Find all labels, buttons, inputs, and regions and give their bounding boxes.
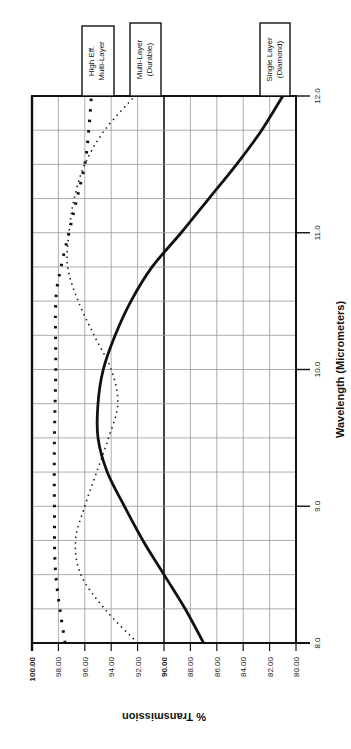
y-tick-label: 80.00: [292, 656, 301, 677]
legend-label: (Durable): [145, 42, 154, 76]
x-tick-label: 10.0: [313, 361, 322, 377]
y-tick-label: 88.00: [186, 656, 195, 677]
y-tick-label: 100.00: [28, 656, 37, 681]
y-tick-label: 98.00: [54, 656, 63, 677]
y-tick-label: 92.00: [134, 656, 143, 677]
x-tick-label: 9.0: [313, 500, 322, 512]
legend-label: Single Layer: [265, 37, 274, 82]
transmission-chart: 100.0098.0096.0094.0092.0090.0088.0086.0…: [0, 0, 351, 749]
y-tick-label: 82.00: [266, 656, 275, 677]
legend-item: High Eff.Multi-Layer: [82, 26, 114, 96]
legend-item: Single Layer(Diamond): [260, 23, 290, 96]
legend-item: Multi-Layer(Durable): [130, 23, 161, 96]
y-tick-label: 96.00: [81, 656, 90, 677]
legend: High Eff.Multi-LayerMulti-Layer(Durable)…: [82, 23, 290, 96]
y-tick-label: 86.00: [213, 656, 222, 677]
y-tick-label: 90.00: [160, 656, 169, 677]
legend-label: High Eff.: [87, 46, 96, 77]
x-axis-label: Wavelength (Micrometers): [334, 301, 346, 438]
axes: [32, 96, 310, 651]
grid: [32, 96, 296, 643]
legend-label: (Diamond): [275, 40, 284, 78]
x-tick-label: 8.0: [313, 637, 322, 649]
x-tick-label: 12.0: [313, 88, 322, 104]
legend-label: Multi-Layer: [97, 41, 106, 81]
y-tick-label: 94.00: [107, 656, 116, 677]
legend-label: Multi-Layer: [135, 39, 144, 79]
y-tick-label: 84.00: [239, 656, 248, 677]
x-tick-label: 11.0: [313, 225, 322, 241]
y-axis-label: % Transmission: [122, 711, 206, 723]
